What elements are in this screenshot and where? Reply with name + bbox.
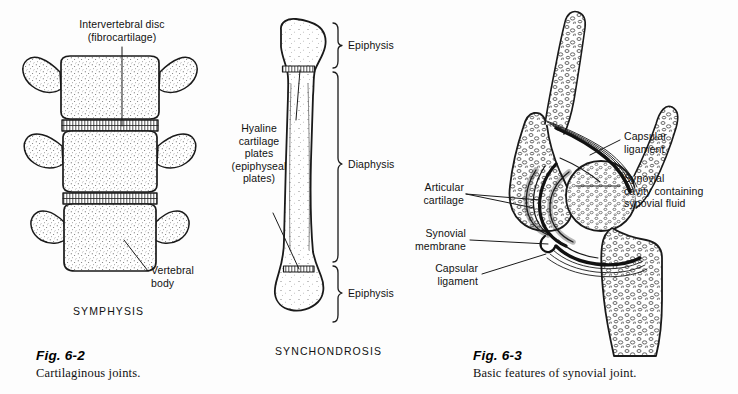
- leader-capsular-ligament-lower: [482, 254, 546, 274]
- leader-synovial-membrane: [470, 240, 548, 244]
- label-synovial-membrane: Synovial membrane: [388, 227, 466, 252]
- label-hyaline-cartilage-plates: Hyaline cartilage plates (epiphyseal pla…: [225, 122, 293, 185]
- label-synchondrosis: SYNCHONDROSIS: [275, 345, 382, 357]
- label-epiphysis-lower: Epiphysis: [348, 287, 394, 300]
- label-intervertebral-disc: Intervertebral disc (fibrocartilage): [62, 18, 182, 43]
- label-symphysis: SYMPHYSIS: [73, 305, 144, 317]
- vertebra-bottom: [31, 204, 189, 271]
- fig-6-2-caption: Cartilaginous joints.: [36, 366, 141, 381]
- bracket-diaphysis: [333, 72, 342, 262]
- label-synovial-cavity: Synovial cavity containing synovial flui…: [624, 172, 736, 210]
- label-capsular-ligament-upper: Capsular ligament: [624, 130, 704, 155]
- ilium-shaft: [545, 11, 585, 134]
- label-vertebral-body: Vertebral body: [151, 264, 221, 289]
- vertebra-top: [23, 56, 197, 119]
- label-epiphysis-upper: Epiphysis: [348, 39, 394, 52]
- figure-plate: Intervertebral disc (fibrocartilage) Ver…: [0, 0, 738, 394]
- epiphyseal-plate-upper: [283, 66, 315, 72]
- label-articular-cartilage: Articular cartilage: [386, 181, 464, 206]
- fig-6-3-number: Fig. 6-3: [473, 348, 522, 363]
- bracket-epiphysis-lower: [333, 266, 342, 322]
- label-diaphysis: Diaphysis: [348, 158, 394, 171]
- label-capsular-ligament-lower: Capsular ligament: [400, 262, 478, 287]
- synovial-membrane-lower: [558, 240, 598, 258]
- vertebral-column-drawing: [23, 47, 197, 271]
- femur-shaft: [601, 228, 662, 356]
- bracket-epiphysis-upper: [333, 23, 342, 68]
- fig-6-2-number: Fig. 6-2: [36, 348, 85, 363]
- intervertebral-disc-upper: [62, 120, 158, 131]
- fig-6-3-caption: Basic features of synovial joint.: [473, 366, 637, 381]
- intervertebral-disc-lower: [63, 193, 157, 204]
- vertebra-middle: [24, 131, 196, 192]
